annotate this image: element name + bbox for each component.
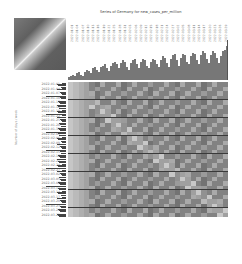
x-label: 2022-03-26: [218, 14, 222, 42]
x-label: 2022-01-16: [96, 14, 100, 42]
x-label: 2022-01-25: [112, 14, 116, 42]
x-label: 2022-01-22: [107, 14, 111, 42]
x-label: 2022-03-02: [176, 14, 180, 42]
x-label: 2022-02-09: [139, 14, 143, 42]
x-axis-labels: 2022-01-012022-01-042022-01-072022-01-10…: [70, 14, 228, 42]
side-bar-row: [44, 213, 66, 218]
x-label: 2022-01-19: [102, 14, 106, 42]
x-label: 2022-01-07: [81, 14, 85, 42]
x-label: 2022-02-06: [134, 14, 138, 42]
x-label: 2022-01-31: [123, 14, 127, 42]
x-label: 2022-03-05: [181, 14, 185, 42]
x-label: 2022-03-23: [213, 14, 217, 42]
side-bar-chart: [44, 82, 66, 217]
x-label: 2022-01-10: [86, 14, 90, 42]
y-axis-title: Number of days / week: [14, 110, 18, 145]
x-label: 2022-01-04: [75, 14, 79, 42]
x-label: 2022-03-20: [208, 14, 212, 42]
x-label: 2022-01-01: [70, 14, 74, 42]
x-label: 2022-02-21: [160, 14, 164, 42]
x-label: 2022-03-17: [202, 14, 206, 42]
x-label: 2022-02-03: [128, 14, 132, 42]
x-label: 2022-02-15: [149, 14, 153, 42]
x-label: 2022-02-27: [171, 14, 175, 42]
x-label: 2022-03-29: [224, 14, 228, 42]
x-label: 2022-03-08: [187, 14, 191, 42]
correlation-matrix: [14, 18, 66, 70]
x-label: 2022-03-14: [197, 14, 201, 42]
x-label: 2022-02-12: [144, 14, 148, 42]
axis-line: [227, 40, 228, 80]
x-label: 2022-03-11: [192, 14, 196, 42]
x-label: 2022-02-18: [155, 14, 159, 42]
x-label: 2022-02-24: [165, 14, 169, 42]
x-label: 2022-01-28: [118, 14, 122, 42]
top-bar-chart: [68, 44, 228, 80]
heatmap-row: [68, 213, 228, 218]
x-label: 2022-01-13: [91, 14, 95, 42]
heatmap: [68, 82, 228, 218]
